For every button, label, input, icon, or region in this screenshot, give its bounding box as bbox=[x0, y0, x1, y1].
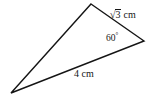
angle-value: 60 bbox=[106, 33, 116, 43]
side-label-sqrt3-cm: √3 cm bbox=[110, 9, 136, 20]
degree-symbol-icon: ° bbox=[116, 31, 119, 39]
side-label-4-cm: 4 cm bbox=[74, 69, 94, 79]
geometry-figure: √3 cm 60° 4 cm bbox=[0, 0, 147, 100]
angle-label-60-degrees: 60° bbox=[106, 34, 118, 44]
side-unit-text: cm bbox=[124, 9, 136, 20]
radical-expression: √3 bbox=[110, 9, 121, 20]
radicand-value: 3 bbox=[115, 9, 121, 20]
